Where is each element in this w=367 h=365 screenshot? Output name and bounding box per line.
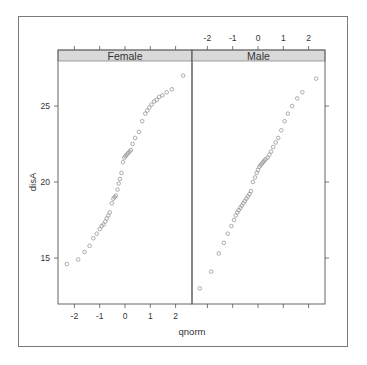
x-tick-label: 1 (281, 33, 286, 43)
x-tick-label: 1 (148, 311, 153, 321)
data-point (251, 180, 255, 184)
panel-female: Female (58, 50, 192, 305)
data-point (92, 236, 96, 240)
panel-box-male (192, 50, 325, 304)
data-point (137, 130, 141, 134)
data-point (170, 87, 174, 91)
data-point (110, 201, 114, 205)
data-point (300, 91, 304, 95)
data-point (283, 119, 287, 123)
y-axis-label: disA (27, 172, 38, 191)
x-tick-label: -2 (204, 33, 212, 43)
x-tick-label: 0 (256, 33, 261, 43)
data-point (198, 287, 202, 291)
data-point (217, 252, 221, 256)
x-tick-label: -2 (71, 311, 79, 321)
x-tick-label: 0 (123, 311, 128, 321)
data-point (88, 244, 92, 248)
data-point (120, 171, 124, 175)
data-point (150, 103, 154, 107)
data-point (269, 150, 273, 154)
data-point (133, 136, 137, 140)
points-female (65, 74, 185, 266)
data-point (140, 119, 144, 123)
data-point (118, 177, 122, 181)
panel-box-female (58, 50, 192, 304)
data-point (314, 77, 318, 81)
data-point (232, 218, 236, 222)
x-tick-label: 2 (173, 311, 178, 321)
strip-label-male: Male (247, 50, 270, 62)
qq-plot: Female Male -2-1012-2-1012152025 qnorm d… (0, 0, 367, 365)
x-tick-label: 2 (306, 33, 311, 43)
x-tick-label: -1 (229, 33, 237, 43)
data-point (165, 91, 169, 95)
data-point (279, 129, 283, 133)
data-point (108, 211, 112, 215)
data-point (249, 189, 253, 193)
points-male (198, 77, 318, 290)
data-point (95, 232, 99, 236)
data-point (276, 136, 280, 140)
y-tick-label: 20 (41, 177, 51, 187)
data-point (116, 188, 120, 192)
data-point (226, 232, 230, 236)
x-axis-label: qnorm (179, 326, 206, 337)
data-point (209, 270, 213, 274)
data-point (131, 142, 135, 146)
data-point (274, 141, 278, 145)
y-tick-label: 25 (41, 101, 51, 111)
y-tick-label: 15 (41, 253, 51, 263)
panel-male: Male (192, 50, 325, 305)
x-tick-label: -1 (96, 311, 104, 321)
data-point (83, 250, 87, 254)
data-point (222, 241, 226, 245)
data-point (117, 182, 121, 186)
data-point (290, 104, 294, 108)
data-point (121, 160, 125, 164)
data-point (76, 258, 80, 262)
data-point (161, 94, 165, 98)
strip-label-female: Female (107, 50, 142, 62)
data-point (181, 74, 185, 78)
data-point (65, 262, 69, 266)
data-point (230, 224, 234, 228)
data-point (253, 176, 257, 180)
data-point (286, 112, 290, 116)
data-point (271, 145, 275, 149)
data-point (295, 97, 299, 101)
